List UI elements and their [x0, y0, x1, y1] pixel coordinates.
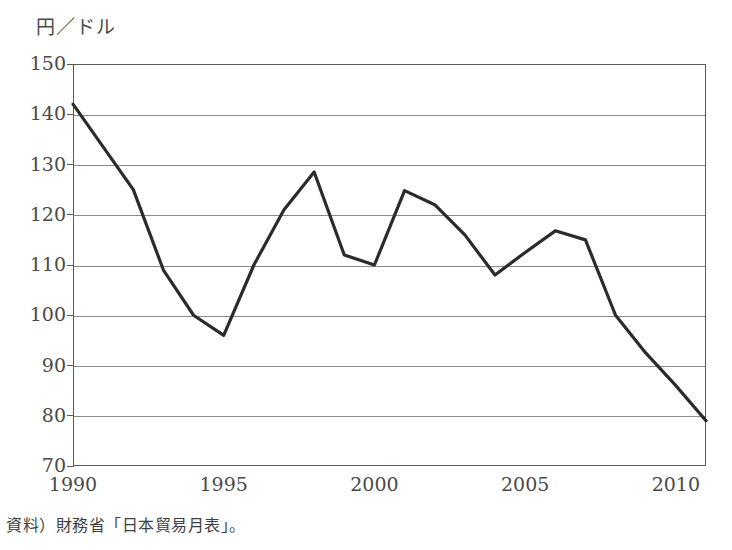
- source-note: 資料）財務省「日本貿易月表」。: [6, 512, 246, 536]
- y-axis-tick-label: 130: [0, 153, 66, 175]
- y-axis-tick-mark: [67, 466, 74, 467]
- y-axis-tick-label: 80: [0, 404, 66, 426]
- x-axis-tick-label: 2005: [501, 473, 549, 495]
- y-axis-tick-mark: [67, 315, 74, 316]
- line-series-layer: [73, 64, 706, 466]
- y-axis-tick-mark: [67, 415, 74, 416]
- y-axis-tick-mark: [67, 214, 74, 215]
- y-axis-tick-mark: [67, 265, 74, 266]
- y-axis-tick-mark: [67, 114, 74, 115]
- y-axis-tick-mark: [67, 64, 74, 65]
- y-axis-tick-mark: [67, 365, 74, 366]
- data-line: [73, 104, 706, 421]
- x-axis-tick-label: 2010: [652, 473, 700, 495]
- y-axis-tick-label: 110: [0, 253, 66, 275]
- exchange-rate-chart-figure: 円／ドル 150140130120110100908070 1990199520…: [0, 0, 732, 550]
- y-axis-tick-label: 90: [0, 354, 66, 376]
- x-axis-tick-label: 1990: [49, 473, 97, 495]
- x-axis-tick-label: 2000: [350, 473, 398, 495]
- y-axis-tick-label: 140: [0, 102, 66, 124]
- y-axis-tick-label: 100: [0, 303, 66, 325]
- y-axis-label: 円／ドル: [36, 12, 116, 39]
- y-axis-tick-label: 150: [0, 52, 66, 74]
- y-axis-tick-mark: [67, 164, 74, 165]
- x-axis-tick-label: 1995: [200, 473, 248, 495]
- y-axis-tick-label: 120: [0, 203, 66, 225]
